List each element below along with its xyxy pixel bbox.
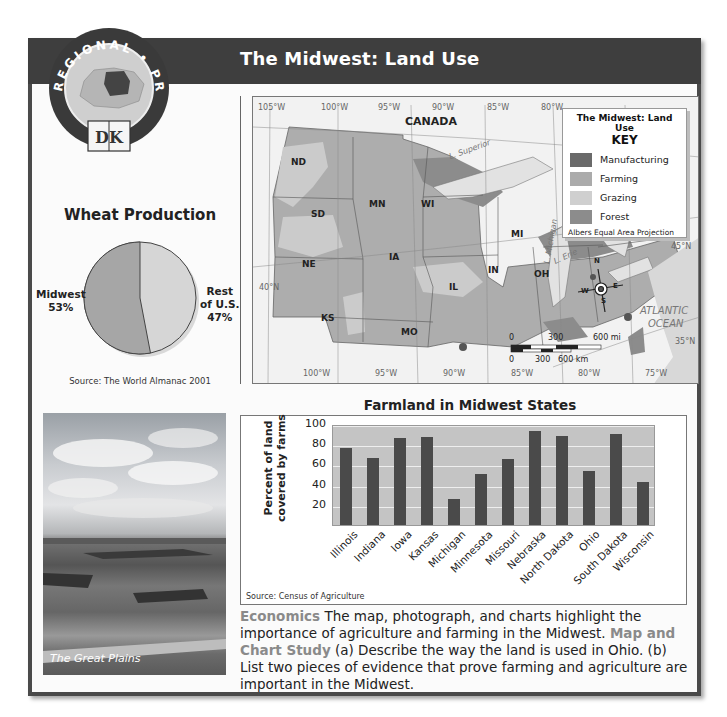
state-label: SD <box>311 209 325 219</box>
scale-label: 0 <box>509 333 514 342</box>
key-item-farming: Farming <box>568 169 681 188</box>
y-tick-label: 60 <box>300 457 326 470</box>
longitude-label: 100°W <box>321 103 348 112</box>
swatch-grazing <box>570 191 592 205</box>
state-label: IL <box>449 282 458 292</box>
state-label: MN <box>369 199 386 209</box>
regional-profile-badge: REGIONAL • PROFILE DK <box>44 26 174 156</box>
section-divider <box>240 96 241 384</box>
longitude-label: 105°W <box>258 103 285 112</box>
bar-minnesota <box>475 474 487 526</box>
key-title: The Midwest: Land Use <box>568 113 681 133</box>
scale-label: 600 km <box>558 355 588 364</box>
state-label: MO <box>401 327 418 337</box>
compass-w: W <box>581 287 589 295</box>
dk-logo: DK <box>95 128 124 147</box>
ocean-label: OCEAN <box>648 318 684 329</box>
state-label: OH <box>534 269 549 279</box>
latitude-label: 35°N <box>675 337 695 346</box>
bar-north-dakota <box>556 436 568 525</box>
bar-michigan <box>448 499 460 525</box>
bar-missouri <box>502 459 514 525</box>
pie-label-rest: Rest of U.S. 47% <box>200 285 240 324</box>
longitude-label: 95°W <box>378 103 400 112</box>
state-label: KS <box>321 313 334 323</box>
scale-label: 600 mi <box>593 333 621 342</box>
gridline <box>333 487 654 488</box>
bar-ohio <box>583 471 595 525</box>
projection-note: Albers Equal Area Projection <box>568 228 681 237</box>
y-tick-label: 20 <box>300 498 326 511</box>
wheat-pie-chart <box>80 238 200 358</box>
bar-iowa <box>394 438 406 525</box>
state-label: WI <box>421 199 434 209</box>
state-label: ND <box>291 157 306 167</box>
compass-n: N <box>594 257 600 265</box>
study-caption: Economics The map, photograph, and chart… <box>240 608 690 693</box>
country-label: CANADA <box>405 115 457 128</box>
bar-illinois <box>340 448 352 525</box>
bar-wisconsin <box>637 482 649 525</box>
longitude-label: 90°W <box>432 103 454 112</box>
state-label: NE <box>302 259 316 269</box>
longitude-label: 90°W <box>443 369 465 378</box>
bar-kansas <box>421 437 433 525</box>
pie-chart-title: Wheat Production <box>30 206 250 224</box>
compass-e: E <box>613 282 618 290</box>
scale-label: 300 <box>548 333 563 342</box>
longitude-label: 80°W <box>578 369 600 378</box>
great-plains-photo: The Great Plains <box>43 413 226 675</box>
map-key: The Midwest: Land Use KEY Manufacturing … <box>562 108 687 238</box>
bar-indiana <box>367 458 379 525</box>
ocean-label: ATLANTIC <box>640 305 688 316</box>
longitude-label: 95°W <box>375 369 397 378</box>
key-item-grazing: Grazing <box>568 188 681 207</box>
key-subtitle: KEY <box>568 133 681 147</box>
y-tick-label: 100 <box>300 417 326 430</box>
page-title: The Midwest: Land Use <box>240 48 479 69</box>
scale-label: 0 <box>509 355 514 364</box>
state-label: IA <box>389 252 399 262</box>
latitude-label: 40°N <box>259 283 279 292</box>
longitude-label: 100°W <box>303 369 330 378</box>
bar-chart-plot <box>332 425 655 526</box>
bar-nebraska <box>529 431 541 525</box>
swatch-farming <box>570 172 592 186</box>
state-label: IN <box>488 265 499 275</box>
compass-s: S <box>601 297 606 305</box>
pie-source: Source: The World Almanac 2001 <box>30 376 250 386</box>
caption-lead: Economics <box>240 608 320 624</box>
gridline <box>333 426 654 427</box>
bar-chart-title: Farmland in Midwest States <box>240 397 700 413</box>
swatch-manufacturing <box>570 153 592 167</box>
gridline <box>333 446 654 447</box>
scale-label: 300 <box>535 355 550 364</box>
swatch-forest <box>570 210 592 224</box>
y-axis-label: Percent of land covered by farms <box>262 413 288 523</box>
gridline <box>333 507 654 508</box>
longitude-label: 85°W <box>487 103 509 112</box>
latitude-label: 45°N <box>671 242 691 251</box>
y-tick-label: 40 <box>300 478 326 491</box>
longitude-label: 80°W <box>541 103 563 112</box>
photo-caption: The Great Plains <box>50 652 141 665</box>
state-label: MI <box>511 229 523 239</box>
longitude-label: 75°W <box>645 369 667 378</box>
bar-chart-source: Source: Census of Agriculture <box>246 592 365 601</box>
bar-south-dakota <box>610 434 622 525</box>
key-item-manufacturing: Manufacturing <box>568 150 681 169</box>
longitude-label: 85°W <box>511 369 533 378</box>
gridline <box>333 466 654 467</box>
pie-label-midwest: Midwest 53% <box>36 288 86 314</box>
key-item-forest: Forest <box>568 207 681 226</box>
y-tick-label: 80 <box>300 437 326 450</box>
landscape-image <box>43 413 226 675</box>
